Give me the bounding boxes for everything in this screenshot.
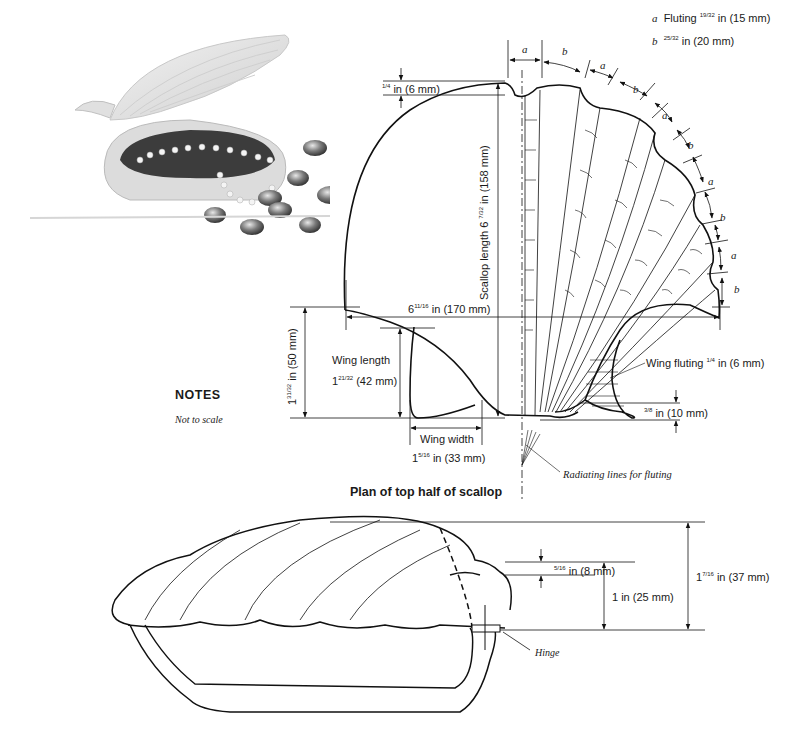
label-a-5: a (731, 250, 737, 261)
dim-total-height: 17/16 in (37 mm) (696, 571, 769, 583)
label-b-top: b (562, 46, 568, 57)
dim-top-notch: 1/4 in (6 mm) (382, 83, 440, 95)
notes-text: Not to scale (175, 414, 223, 425)
dim-width: 611/16 in (170 mm) (408, 303, 490, 315)
label-b-4: b (720, 212, 726, 223)
dim-base-offset: 3/8 in (10 mm) (644, 407, 708, 419)
dim-scallop-length: Scallop length 6 7/32 in (158 mm) (478, 145, 490, 300)
notes-heading: NOTES (175, 388, 221, 402)
dim-wing-length: 121/32 (42 mm) (332, 375, 397, 387)
legend-b: b 25/32 in (20 mm) (652, 35, 734, 47)
dim-wing-width-label: Wing width (420, 434, 474, 445)
dim-wing-length-label: Wing length (332, 355, 390, 366)
plan-title: Plan of top half of scallop (350, 485, 502, 499)
dim-wing-total: 131/32 in (50 mm) (286, 328, 298, 405)
dim-lid-height: 1 in (25 mm) (612, 592, 674, 603)
label-b-5: b (734, 284, 740, 295)
label-b-3: b (688, 140, 694, 151)
label-a-top: a (522, 44, 528, 55)
label-a-4: a (708, 176, 714, 187)
label-b-2: b (633, 84, 639, 95)
legend-a: a Fluting 19/32 in (15 mm) (652, 12, 770, 24)
label-radiating-lines: Radiating lines for fluting (563, 470, 672, 481)
dim-lip: 5/16 in (8 mm) (554, 565, 615, 577)
dim-wing-fluting: Wing fluting 1/4 in (6 mm) (646, 357, 764, 369)
dim-wing-width: 15/16 in (33 mm) (412, 452, 485, 464)
label-hinge: Hinge (535, 648, 559, 658)
label-a-2: a (600, 60, 606, 71)
side-elevation (112, 516, 511, 712)
label-a-3: a (662, 110, 668, 121)
